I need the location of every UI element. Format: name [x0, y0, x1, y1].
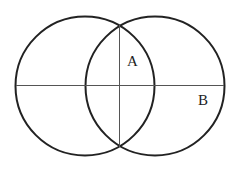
label-b: B — [198, 92, 208, 108]
label-a: A — [127, 53, 138, 69]
venn-diagram: A B — [0, 0, 236, 173]
